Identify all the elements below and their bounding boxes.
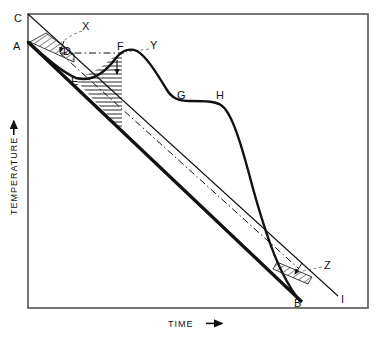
label-X: X <box>82 20 90 32</box>
cooling-curve-figure: C A X D F Y E G H Z B I TEMPERATURE TIME <box>0 0 380 341</box>
y-axis-label: TEMPERATURE <box>9 137 19 215</box>
plot-frame <box>28 14 368 308</box>
label-Y: Y <box>150 39 158 51</box>
label-Z: Z <box>324 259 331 271</box>
label-B: B <box>294 297 301 309</box>
label-D: D <box>63 45 71 57</box>
figure-page: C A X D F Y E G H Z B I TEMPERATURE TIME <box>0 0 380 341</box>
x-axis-label: TIME <box>168 319 194 329</box>
label-E: E <box>71 75 78 87</box>
y-axis-label-group: TEMPERATURE <box>9 121 19 215</box>
baseline-a-b <box>28 42 302 302</box>
label-I: I <box>341 293 344 305</box>
label-G: G <box>177 89 186 101</box>
reference-line-c-i <box>28 14 338 296</box>
dash-dot-line-descend <box>60 53 298 268</box>
label-C: C <box>14 12 22 24</box>
label-H: H <box>216 89 224 101</box>
x-axis-label-group: TIME <box>168 319 222 329</box>
label-A: A <box>13 40 21 52</box>
label-F: F <box>117 40 124 52</box>
region-x-leader <box>58 31 82 46</box>
